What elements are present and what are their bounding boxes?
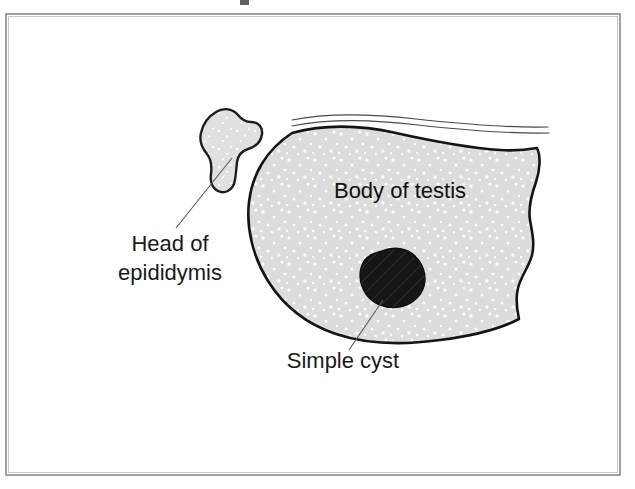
testis-body-group (248, 127, 539, 343)
label-body-of-testis: Body of testis (334, 178, 466, 203)
testis-body-shape (248, 127, 539, 343)
figure-root: Head of epididymis Body of testis Simple… (0, 0, 635, 489)
label-simple-cyst: Simple cyst (287, 348, 399, 373)
label-head-of-epididymis-line2: epididymis (118, 260, 222, 285)
cyst-group (360, 248, 425, 307)
label-head-of-epididymis-line1: Head of (131, 231, 209, 256)
simple-cyst-shape (360, 248, 425, 307)
testis-diagram: Head of epididymis Body of testis Simple… (0, 0, 635, 489)
cropped-caption-remnant (240, 0, 249, 5)
